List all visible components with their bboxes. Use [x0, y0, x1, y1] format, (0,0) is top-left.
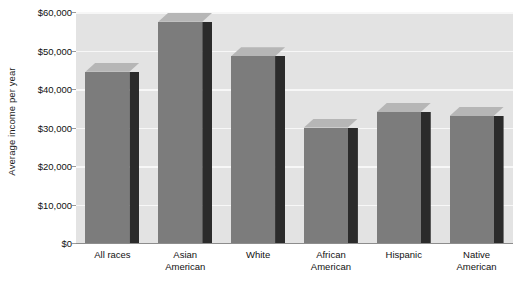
x-category-label-line1: African: [316, 249, 346, 260]
bar-front-face: [85, 72, 129, 243]
x-category-label-line2: American: [295, 261, 368, 273]
bar-5: [450, 107, 504, 243]
y-tick-mark: [72, 51, 76, 52]
x-category-label-5: NativeAmerican: [440, 249, 513, 273]
y-tick-label: $40,000: [10, 84, 72, 95]
plot-area: [76, 12, 513, 243]
bar-1: [158, 13, 212, 243]
x-category-label-3: AfricanAmerican: [295, 249, 368, 273]
bar-side-face: [275, 56, 285, 243]
y-tick-label: $10,000: [10, 199, 72, 210]
x-category-label-line1: Hispanic: [386, 249, 422, 260]
x-category-label-0: All races: [76, 249, 149, 261]
y-tick-mark: [72, 12, 76, 13]
y-tick-label: $20,000: [10, 161, 72, 172]
bar-front-face: [450, 116, 494, 243]
bar-side-face: [348, 128, 358, 244]
x-category-label-line1: White: [246, 249, 270, 260]
x-category-label-line1: All races: [94, 249, 130, 260]
x-category-label-line1: Asian: [173, 249, 197, 260]
y-tick-label: $30,000: [10, 122, 72, 133]
x-category-label-line2: American: [440, 261, 513, 273]
x-category-label-4: Hispanic: [367, 249, 440, 261]
bar-top-face: [450, 107, 504, 116]
bar-3: [304, 119, 358, 244]
bar-front-face: [231, 56, 275, 243]
y-tick-label: $0: [10, 238, 72, 249]
x-category-label-line1: Native: [463, 249, 490, 260]
bar-side-face: [202, 22, 212, 243]
y-tick-mark: [72, 166, 76, 167]
bar-0: [85, 63, 139, 243]
y-tick-mark: [72, 89, 76, 90]
bar-side-face: [494, 116, 504, 243]
x-category-label-1: AsianAmerican: [149, 249, 222, 273]
y-tick-label: $60,000: [10, 7, 72, 18]
bar-front-face: [304, 128, 348, 244]
gridline: [76, 128, 513, 130]
bar-side-face: [129, 72, 139, 243]
bar-top-face: [304, 119, 358, 128]
x-axis-line: [72, 243, 513, 244]
y-tick-mark: [72, 205, 76, 206]
bar-top-face: [231, 47, 285, 56]
y-tick-mark: [72, 243, 76, 244]
bar-top-face: [377, 103, 431, 112]
bar-front-face: [377, 112, 421, 243]
bar-4: [377, 103, 431, 243]
gridline: [76, 51, 513, 53]
bar-top-face: [85, 63, 139, 72]
bar-top-face: [158, 13, 212, 22]
x-category-label-line2: American: [149, 261, 222, 273]
y-tick-mark: [72, 128, 76, 129]
gridline: [76, 12, 513, 14]
gridline: [76, 89, 513, 91]
gridline: [76, 205, 513, 207]
x-category-label-2: White: [222, 249, 295, 261]
bar-front-face: [158, 22, 202, 243]
bar-chart: Average income per year $0$10,000$20,000…: [0, 0, 527, 282]
y-axis-tick-labels: $0$10,000$20,000$30,000$40,000$50,000$60…: [8, 0, 72, 282]
gridline: [76, 166, 513, 168]
bar-side-face: [421, 112, 431, 243]
bar-2: [231, 47, 285, 243]
y-tick-label: $50,000: [10, 45, 72, 56]
